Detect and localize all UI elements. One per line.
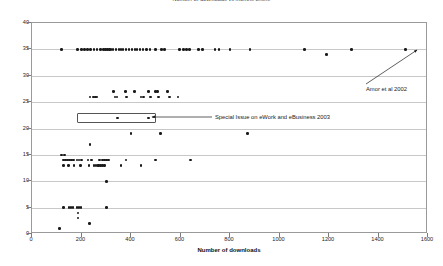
data-point	[154, 159, 157, 162]
data-point	[189, 159, 192, 162]
x-tick-mark-800	[229, 233, 230, 237]
data-point	[178, 48, 181, 51]
data-point	[177, 96, 180, 99]
data-point	[166, 90, 169, 93]
gridline-y-15	[32, 155, 426, 156]
data-point	[89, 48, 92, 51]
data-point	[130, 132, 133, 135]
data-point	[93, 48, 96, 51]
data-point	[90, 159, 93, 162]
x-tick-mark-400	[130, 233, 131, 237]
y-tick-label-25: 25	[3, 98, 29, 104]
data-point	[120, 164, 123, 167]
x-tick-mark-0	[31, 233, 32, 237]
data-point	[154, 48, 157, 51]
data-point	[89, 143, 92, 146]
data-point	[124, 90, 127, 93]
data-point	[87, 159, 90, 162]
data-point	[62, 164, 65, 167]
data-point	[88, 164, 91, 167]
data-point	[103, 164, 106, 167]
data-point	[98, 159, 101, 162]
data-point	[67, 164, 70, 167]
data-point	[246, 132, 249, 135]
data-point	[62, 206, 65, 209]
data-point	[77, 217, 80, 220]
data-point	[159, 132, 162, 135]
gridline-y-5	[32, 208, 426, 209]
data-point	[116, 96, 119, 99]
x-axis-title: Number of downloads	[31, 247, 427, 253]
data-point	[97, 164, 100, 167]
x-tick-mark-200	[81, 233, 82, 237]
x-tick-mark-1400	[378, 233, 379, 237]
data-point	[404, 48, 407, 51]
data-point	[201, 48, 204, 51]
data-point	[112, 90, 115, 93]
data-point	[157, 96, 160, 99]
y-tick-label-5: 5	[3, 204, 29, 210]
special-issue-annotation-label: Special Issue on eWork and eBusiness 200…	[215, 114, 330, 121]
data-point	[139, 48, 142, 51]
y-tick-label-30: 30	[3, 72, 29, 78]
data-point	[58, 227, 61, 230]
data-point	[147, 90, 150, 93]
data-point	[60, 154, 63, 157]
data-point	[142, 96, 145, 99]
special-issue-highlight	[77, 113, 156, 124]
data-point	[125, 96, 128, 99]
plot-area	[31, 22, 427, 233]
y-axis: 0510152025303540	[0, 0, 29, 266]
data-point	[77, 212, 80, 215]
y-tick-label-10: 10	[3, 177, 29, 183]
data-point	[145, 48, 148, 51]
gridline-y-10	[32, 181, 426, 182]
data-point	[142, 48, 145, 51]
gridline-y-30	[32, 76, 426, 77]
data-point	[249, 48, 252, 51]
data-point	[149, 96, 152, 99]
data-point	[105, 180, 108, 183]
data-point	[88, 222, 91, 225]
data-point	[303, 48, 306, 51]
data-point	[163, 48, 166, 51]
data-point	[89, 96, 92, 99]
y-tick-label-15: 15	[3, 151, 29, 157]
data-point	[79, 164, 82, 167]
data-point	[72, 159, 75, 162]
data-point	[140, 164, 143, 167]
x-tick-mark-600	[180, 233, 181, 237]
data-point	[96, 48, 99, 51]
data-point	[325, 53, 328, 56]
data-point	[60, 48, 63, 51]
scatter-chart: Number of downloads vs months online 051…	[0, 0, 443, 266]
amor-annotation-label: Amor et al 2002	[366, 86, 407, 93]
y-tick-label-20: 20	[3, 125, 29, 131]
data-point	[96, 96, 99, 99]
data-point	[107, 159, 110, 162]
x-tick-mark-1600	[427, 233, 428, 237]
x-tick-mark-1000	[279, 233, 280, 237]
data-point	[73, 164, 76, 167]
data-point	[131, 48, 134, 51]
chart-title: Number of downloads vs months online	[0, 0, 443, 3]
data-point	[156, 90, 159, 93]
y-tick-label-40: 40	[3, 19, 29, 25]
data-point	[80, 159, 83, 162]
data-point	[105, 206, 108, 209]
x-tick-mark-1200	[328, 233, 329, 237]
y-tick-label-35: 35	[3, 45, 29, 51]
data-point	[136, 48, 139, 51]
data-point	[133, 90, 136, 93]
data-point	[350, 48, 353, 51]
data-point	[149, 48, 152, 51]
data-point	[63, 154, 66, 157]
data-point	[76, 48, 79, 51]
gridline-y-25	[32, 102, 426, 103]
data-point	[188, 48, 191, 51]
data-point	[197, 48, 200, 51]
gridline-y-20	[32, 129, 426, 130]
data-point	[125, 159, 128, 162]
data-point	[168, 96, 171, 99]
